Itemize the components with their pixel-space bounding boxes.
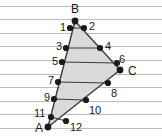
geometry-figure: 123456789101112ABC bbox=[0, 0, 162, 137]
figure-canvas bbox=[0, 0, 162, 137]
point-label-1: 1 bbox=[60, 22, 66, 33]
vertex-dot-B bbox=[72, 18, 79, 25]
point-dot-4 bbox=[97, 45, 103, 51]
vertex-label-B: B bbox=[71, 4, 79, 15]
point-dot-12 bbox=[63, 118, 69, 124]
point-dot-7 bbox=[55, 79, 61, 85]
point-label-5: 5 bbox=[52, 56, 58, 67]
point-dot-11 bbox=[48, 114, 54, 120]
point-label-6: 6 bbox=[119, 54, 125, 65]
point-label-10: 10 bbox=[89, 105, 101, 116]
vertex-dot-C bbox=[117, 67, 124, 74]
point-label-8: 8 bbox=[111, 88, 117, 99]
point-dot-9 bbox=[51, 96, 57, 102]
point-dot-10 bbox=[83, 97, 89, 103]
point-label-11: 11 bbox=[34, 108, 45, 119]
point-label-9: 9 bbox=[44, 92, 50, 103]
point-dot-1 bbox=[67, 25, 73, 31]
point-dot-3 bbox=[63, 45, 69, 51]
point-dot-2 bbox=[81, 25, 87, 31]
vertex-label-C: C bbox=[128, 66, 137, 77]
point-dot-8 bbox=[105, 80, 111, 86]
point-label-12: 12 bbox=[70, 122, 82, 133]
vertex-label-A: A bbox=[35, 123, 43, 134]
point-dot-5 bbox=[59, 59, 65, 65]
point-label-2: 2 bbox=[89, 21, 95, 32]
point-label-4: 4 bbox=[105, 41, 111, 52]
point-label-3: 3 bbox=[56, 41, 62, 52]
vertex-dot-A bbox=[45, 124, 52, 131]
point-label-7: 7 bbox=[48, 75, 54, 86]
